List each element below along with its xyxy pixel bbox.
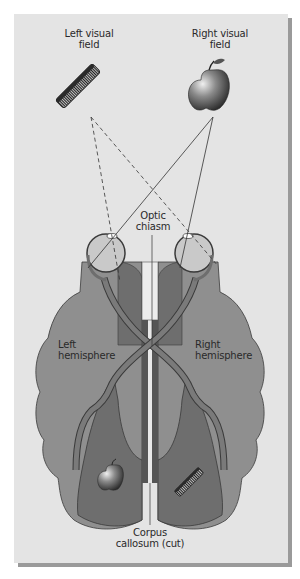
label-line: Corpus bbox=[105, 527, 195, 538]
label-line: hemisphere bbox=[58, 350, 128, 361]
label-line: Optic bbox=[128, 210, 178, 221]
label-line: Left visual bbox=[44, 28, 134, 39]
diagram-canvas bbox=[0, 0, 300, 579]
label-line: chiasm bbox=[128, 221, 178, 232]
split-brain-diagram: Left visual field Right visual field Opt… bbox=[0, 0, 300, 579]
right-hemisphere-label: Right hemisphere bbox=[195, 339, 265, 361]
left-visual-field-label: Left visual field bbox=[44, 28, 134, 50]
label-line: Left bbox=[58, 339, 128, 350]
right-visual-field-label: Right visual field bbox=[175, 28, 265, 50]
left-hemisphere-label: Left hemisphere bbox=[58, 339, 128, 361]
corpus-callosum-top-light bbox=[142, 262, 158, 320]
label-line: hemisphere bbox=[195, 350, 265, 361]
label-line: field bbox=[175, 39, 265, 50]
label-line: Right bbox=[195, 339, 265, 350]
label-line: Right visual bbox=[175, 28, 265, 39]
corpus-callosum-label: Corpus callosum (cut) bbox=[105, 527, 195, 549]
label-line: callosum (cut) bbox=[105, 538, 195, 549]
optic-chiasm-label: Optic chiasm bbox=[128, 210, 178, 232]
label-line: field bbox=[44, 39, 134, 50]
